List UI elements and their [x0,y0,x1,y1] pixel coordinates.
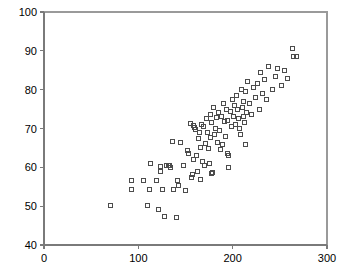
scatter-point [227,165,231,169]
scatter-point [295,55,299,59]
scatter-point [243,121,247,125]
scatter-point [235,108,239,112]
y-tick-label: 40 [25,239,37,251]
scatter-point [206,147,210,151]
axis-ticks [40,12,327,249]
scatter-point [148,188,152,192]
scatter-point [244,90,248,94]
scatter-point [184,188,188,192]
scatter-point [203,141,207,145]
scatter-point [246,80,250,84]
scatter-point [156,207,160,211]
scatter-point [179,140,183,144]
scatter-point [197,136,201,140]
scatter-point [280,84,284,88]
scatter-point [238,132,242,136]
scatter-point [290,47,294,51]
x-tick-label: 0 [41,252,47,264]
scatter-point [177,184,181,188]
scatter-point [210,121,214,125]
axis-tick-labels: 4050607080901000100200300 [19,6,337,264]
scatter-point [257,107,261,111]
y-tick-label: 100 [19,6,37,18]
scatter-point [232,114,236,118]
scatter-point [175,179,179,183]
scatter-point [259,70,263,74]
scatter-point [207,161,211,165]
x-tick-label: 200 [223,252,241,264]
scatter-point [223,134,227,138]
y-tick-label: 90 [25,45,37,57]
scatter-point [285,76,289,80]
scatter-point [229,109,233,113]
scatter-point [283,68,287,72]
x-tick-label: 100 [129,252,147,264]
scatter-point [253,95,257,99]
scatter-point [233,103,237,107]
scatter-point [149,161,153,165]
scatter-point [239,88,243,92]
scatter-point [270,88,274,92]
x-tick-label: 300 [318,252,336,264]
scatter-point [158,165,162,169]
scatter-point [212,105,216,109]
scatter-point [248,101,252,105]
y-tick-label: 60 [25,161,37,173]
y-tick-label: 50 [25,200,37,212]
scatter-point [236,117,240,121]
scatter-point [108,204,112,208]
y-tick-label: 80 [25,84,37,96]
scatter-point [159,170,163,174]
scatter-point [196,169,200,173]
scatter-point [265,97,269,101]
scatter-point [224,107,228,111]
data-markers [108,47,299,220]
scatter-point [161,188,165,192]
scatter-point [267,64,271,68]
scatter-point [215,116,219,120]
scatter-point [273,74,277,78]
plot-frame [44,12,327,245]
scatter-point [154,179,158,183]
scatter-point [170,139,174,143]
scatter-point [130,188,134,192]
scatter-point [218,148,222,152]
scatter-point [199,178,203,182]
scatter-point [250,113,254,117]
scatter-point [130,179,134,183]
scatter-point [261,92,265,96]
scatter-plot-figure: 4050607080901000100200300 [0,0,346,278]
scatter-point [216,140,220,144]
scatter-point [220,143,224,147]
scatter-point [171,188,175,192]
scatter-point [242,99,246,103]
scatter-point [182,163,186,167]
scatter-point [221,101,225,105]
scatter-point [199,146,203,150]
scatter-point [146,203,150,207]
scatter-point [292,55,296,59]
scatter-point [240,105,244,109]
scatter-point [276,66,280,70]
scatter-point [174,216,178,220]
plot-canvas: 4050607080901000100200300 [0,0,346,278]
scatter-point [244,142,248,146]
y-tick-label: 70 [25,123,37,135]
scatter-point [142,179,146,183]
scatter-point [263,78,267,82]
scatter-point [205,130,209,134]
scatter-point [163,215,167,219]
